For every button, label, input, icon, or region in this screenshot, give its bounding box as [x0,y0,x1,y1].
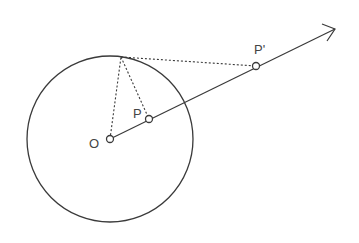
point-P-prime [253,63,260,70]
label-P: P [133,106,142,121]
label-P-prime: P' [254,42,265,57]
ray-from-center [110,29,335,139]
center-point-O [107,136,114,143]
point-P [146,116,153,123]
inversion-diagram: O P P' [0,0,359,243]
radius-to-tangent-point [110,57,121,139]
label-O: O [89,136,99,151]
